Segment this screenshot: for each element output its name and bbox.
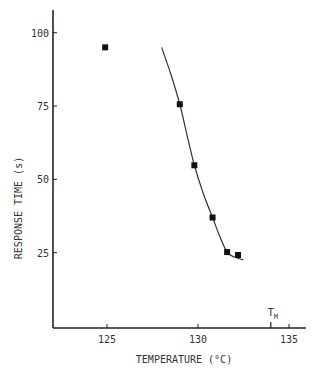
x-tick-label: 130 <box>189 334 207 345</box>
y-axis-label: RESPONSE TIME (s) <box>13 157 24 259</box>
y-tick-label: 25 <box>37 248 49 259</box>
data-point-marker <box>210 214 216 220</box>
data-point-marker <box>177 101 183 107</box>
data-point-marker <box>191 162 197 168</box>
x-axis-label: TEMPERATURE (°C) <box>136 354 232 365</box>
data-point-marker <box>235 252 241 258</box>
axes <box>53 10 306 328</box>
y-tick-label: 75 <box>37 101 49 112</box>
x-ticks: 125130135 <box>98 324 298 345</box>
tm-annotation: TM <box>268 307 278 328</box>
y-tick-label: 100 <box>31 28 49 39</box>
x-tick-label: 135 <box>280 334 298 345</box>
y-tick-label: 50 <box>37 174 49 185</box>
data-point-marker <box>102 44 108 50</box>
x-tick-label: 125 <box>98 334 116 345</box>
data-point-marker <box>224 249 230 255</box>
tm-label: TM <box>268 307 278 321</box>
fitted-curve <box>162 47 244 260</box>
response-time-chart: 255075100 125130135 RESPONSE TIME (s) TE… <box>0 0 321 376</box>
